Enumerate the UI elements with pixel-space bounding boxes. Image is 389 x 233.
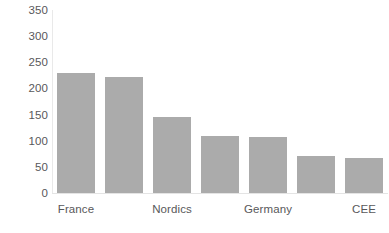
- y-axis-tick-label: 100: [4, 135, 48, 147]
- bar: [105, 77, 143, 193]
- bar: [201, 136, 239, 194]
- bar: [345, 158, 383, 193]
- y-axis-tick-label: 350: [4, 4, 48, 16]
- plot-area: [52, 10, 388, 193]
- y-axis-tick-label: 50: [4, 161, 48, 173]
- x-axis-tick-label: France: [58, 203, 94, 216]
- bar: [57, 73, 95, 193]
- y-axis-tick-label: 150: [4, 109, 48, 121]
- x-axis-line: [52, 193, 388, 194]
- bar: [297, 156, 335, 193]
- x-axis-tick-label: CEE: [352, 203, 376, 216]
- y-axis-tick-label: 250: [4, 56, 48, 68]
- x-axis-tick-label: Germany: [244, 203, 292, 216]
- y-axis-tick-label: 0: [4, 187, 48, 199]
- y-axis-tick-label: 300: [4, 30, 48, 42]
- bar: [249, 137, 287, 193]
- x-axis-tick-label: Nordics: [152, 203, 192, 216]
- bar: [153, 117, 191, 193]
- bar-chart: 050100150200250300350 FranceNordicsGerma…: [0, 0, 389, 233]
- y-axis-tick-label: 200: [4, 82, 48, 94]
